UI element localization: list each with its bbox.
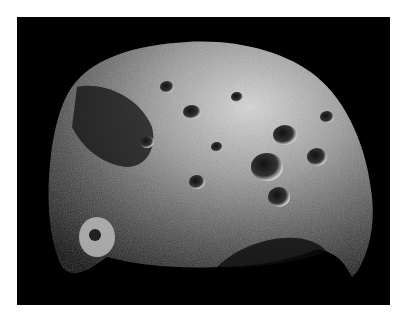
moon-illustration <box>17 17 390 305</box>
space-photo <box>17 17 390 305</box>
